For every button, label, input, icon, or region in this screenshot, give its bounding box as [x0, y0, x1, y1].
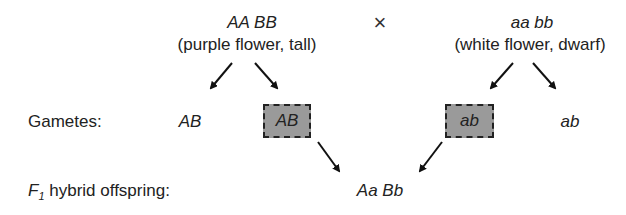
arrow-p1-left	[211, 63, 232, 88]
arrow-p2-right	[533, 63, 555, 88]
arrow-p1-right	[255, 63, 277, 88]
arrow-gamete-to-f1-right	[420, 142, 442, 171]
arrows	[0, 0, 626, 215]
arrow-p2-left	[491, 63, 513, 88]
arrow-gamete-to-f1-left	[318, 142, 339, 171]
